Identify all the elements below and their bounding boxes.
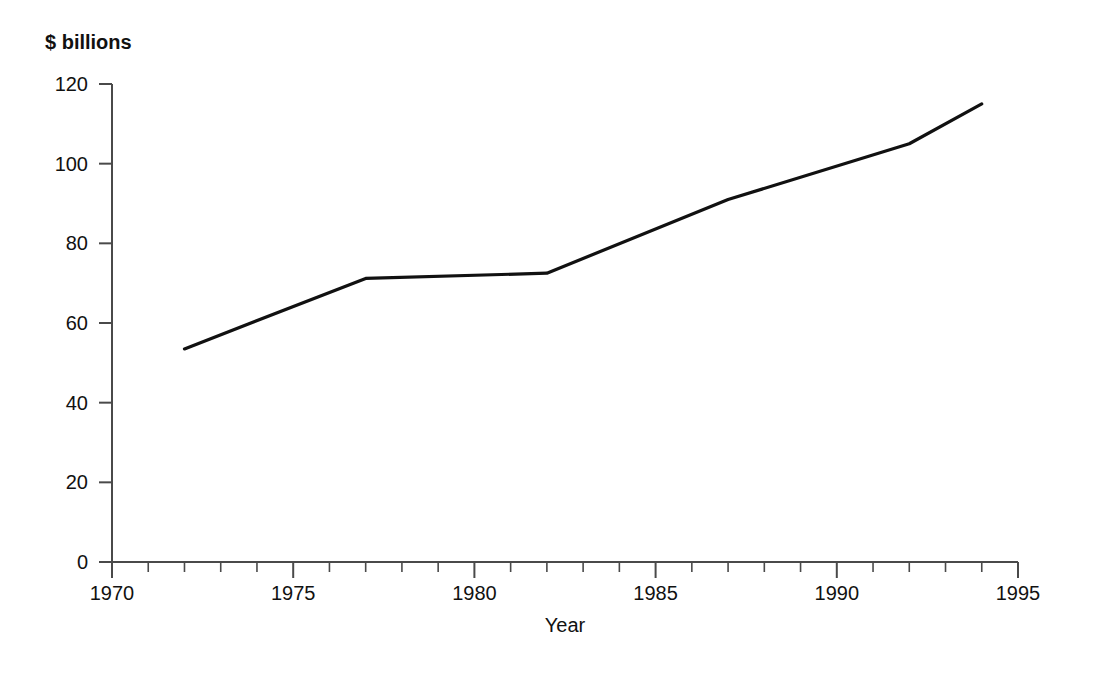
x-axis-title: Year xyxy=(545,614,586,636)
x-tick-label: 1975 xyxy=(271,582,316,604)
x-tick-label: 1985 xyxy=(633,582,678,604)
x-tick-label: 1970 xyxy=(90,582,135,604)
x-axis-minor-ticks xyxy=(148,562,982,572)
data-line-value xyxy=(184,104,981,349)
y-tick-label: 80 xyxy=(66,232,88,254)
x-tick-label: 1990 xyxy=(815,582,860,604)
y-axis-title: $ billions xyxy=(45,31,132,53)
y-tick-label: 0 xyxy=(77,551,88,573)
y-tick-label: 20 xyxy=(66,471,88,493)
data-series-group xyxy=(184,104,981,349)
y-tick-label: 120 xyxy=(55,73,88,95)
y-axis-ticks xyxy=(99,84,112,562)
y-tick-label: 100 xyxy=(55,153,88,175)
x-axis-tick-labels: 197019751980198519901995 xyxy=(90,582,1041,604)
y-tick-label: 60 xyxy=(66,312,88,334)
chart-canvas: 020406080100120 197019751980198519901995… xyxy=(0,0,1097,673)
x-tick-label: 1995 xyxy=(996,582,1041,604)
y-axis-tick-labels: 020406080100120 xyxy=(55,73,88,573)
x-tick-label: 1980 xyxy=(452,582,497,604)
y-tick-label: 40 xyxy=(66,392,88,414)
line-chart-figure: 020406080100120 197019751980198519901995… xyxy=(0,0,1097,673)
